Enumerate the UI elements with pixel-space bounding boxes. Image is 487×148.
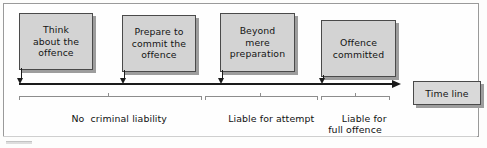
stage-line-2: mere	[245, 37, 270, 48]
segment-label-liable-for-full-offence: Liable forfull offence	[307, 101, 403, 147]
time-line-label-box[interactable]: Time line	[413, 81, 481, 105]
stage-line-2: committed	[333, 49, 384, 60]
diagram-frame: Thinkabout theoffence Prepare tocommit t…	[3, 3, 479, 137]
stage-box-beyond-mere-preparation[interactable]: Beyondmerepreparation	[220, 13, 295, 72]
stage-box-prepare-text: Prepare tocommit theoffence	[130, 26, 188, 60]
stage-box-prepare[interactable]: Prepare tocommit theoffence	[122, 15, 196, 72]
brace-tick-start	[19, 96, 20, 100]
stage-box-think-text: Thinkabout theoffence	[31, 24, 81, 58]
brace-tick-start	[205, 96, 206, 100]
stage-box-beyond-text: Beyondmerepreparation	[228, 25, 287, 59]
stage-line-3: offence	[38, 47, 73, 58]
stage-line-3: preparation	[230, 48, 285, 59]
segment-label-line-1: Liable for attempt	[228, 113, 314, 124]
segment-label-line-1: Liable for	[342, 113, 387, 124]
brace-no-criminal-liability	[19, 96, 202, 97]
time-line-label-text: Time line	[425, 88, 468, 99]
stage-line-1: Offence	[340, 37, 377, 48]
stage-line-3: offence	[141, 49, 176, 60]
arrowhead-right-icon	[392, 80, 401, 88]
caption-text-remnant	[6, 141, 32, 144]
stage-line-2: commit the	[132, 38, 186, 49]
stage-box-committed-text: Offencecommitted	[331, 37, 386, 60]
timeline-axis	[19, 83, 394, 85]
brace-tick-end	[201, 96, 202, 100]
brace-tick-end	[389, 96, 390, 100]
brace-tick-mid	[108, 93, 109, 97]
stage-line-2: about the	[33, 36, 79, 47]
brace-tick-mid	[355, 93, 356, 97]
stage-box-offence-committed[interactable]: Offencecommitted	[321, 20, 396, 77]
stage-line-1: Prepare to	[134, 26, 183, 37]
stage-box-think[interactable]: Thinkabout theoffence	[19, 13, 93, 70]
segment-label-line-2: full offence	[328, 124, 382, 135]
brace-tick-end	[317, 96, 318, 100]
brace-liable-for-attempt	[205, 96, 318, 97]
segment-label-line-1: No criminal liability	[72, 113, 167, 124]
segment-label-liable-for-attempt: Liable for attempt	[207, 101, 317, 136]
page-rule-line	[3, 136, 477, 137]
brace-tick-start	[321, 96, 322, 100]
stage-line-1: Beyond	[240, 25, 276, 36]
brace-tick-mid	[260, 93, 261, 97]
stage-line-1: Think	[43, 24, 69, 35]
segment-label-no-criminal-liability: No criminal liability	[30, 101, 190, 136]
scanned-page: Thinkabout theoffence Prepare tocommit t…	[0, 0, 487, 148]
